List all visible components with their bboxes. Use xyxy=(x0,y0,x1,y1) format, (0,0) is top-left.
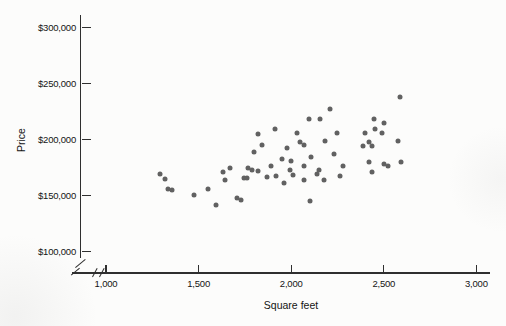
data-point xyxy=(331,151,336,156)
data-point xyxy=(395,138,400,143)
x-axis-title: Square feet xyxy=(264,299,318,311)
y-tick-mark xyxy=(82,83,91,84)
data-point xyxy=(385,164,390,169)
data-point xyxy=(205,186,210,191)
data-point xyxy=(255,132,260,137)
data-point xyxy=(323,138,328,143)
data-point xyxy=(228,165,233,170)
data-point xyxy=(307,199,312,204)
y-tick-label: $300,000 xyxy=(18,22,76,33)
x-tick-mark xyxy=(383,265,384,273)
data-point xyxy=(268,164,273,169)
data-point xyxy=(341,163,346,168)
data-point xyxy=(265,175,270,180)
data-point xyxy=(334,131,339,136)
data-point xyxy=(381,121,386,126)
data-point xyxy=(157,171,162,176)
data-point xyxy=(308,154,313,159)
y-tick-label: $150,000 xyxy=(18,190,76,201)
y-tick-mark xyxy=(82,195,91,196)
data-point xyxy=(338,174,343,179)
x-tick-label: 1,000 xyxy=(76,278,136,289)
data-point xyxy=(372,127,377,132)
data-point xyxy=(274,173,279,178)
data-point xyxy=(239,197,244,202)
x-tick-label: 2,500 xyxy=(354,278,414,289)
data-point xyxy=(220,169,225,174)
x-tick-label: 3,000 xyxy=(446,278,506,289)
data-point xyxy=(361,143,366,148)
data-point xyxy=(294,131,299,136)
data-point xyxy=(363,131,368,136)
scatter-chart: Price Square feet $100,000$150,000$200,0… xyxy=(0,0,506,326)
data-point xyxy=(291,172,296,177)
y-tick-label: $200,000 xyxy=(18,134,76,145)
x-tick-mark xyxy=(198,265,199,273)
data-point xyxy=(399,160,404,165)
y-axis-line xyxy=(80,15,81,258)
data-point xyxy=(371,117,376,122)
data-point xyxy=(306,117,311,122)
y-tick-mark xyxy=(82,251,91,252)
x-tick-mark xyxy=(105,265,106,273)
data-point xyxy=(369,144,374,149)
data-point xyxy=(244,175,249,180)
data-point xyxy=(279,156,284,161)
data-point xyxy=(321,177,326,182)
data-point xyxy=(397,94,402,99)
data-point xyxy=(272,127,277,132)
data-point xyxy=(169,187,174,192)
x-axis-line xyxy=(72,272,490,273)
data-point xyxy=(379,131,384,136)
x-tick-mark xyxy=(476,265,477,273)
data-point xyxy=(328,107,333,112)
data-point xyxy=(281,180,286,185)
data-point xyxy=(302,164,307,169)
data-point xyxy=(316,167,321,172)
x-tick-label: 1,500 xyxy=(169,278,229,289)
x-tick-mark xyxy=(291,265,292,273)
data-point xyxy=(223,177,228,182)
data-point xyxy=(302,177,307,182)
data-point xyxy=(191,192,196,197)
data-point xyxy=(214,203,219,208)
data-point xyxy=(289,158,294,163)
y-tick-mark xyxy=(82,139,91,140)
data-point xyxy=(366,160,371,165)
data-point xyxy=(250,167,255,172)
x-tick-label: 2,000 xyxy=(261,278,321,289)
y-tick-label: $100,000 xyxy=(18,246,76,257)
data-point xyxy=(302,142,307,147)
data-point xyxy=(260,142,265,147)
data-point xyxy=(369,169,374,174)
data-point xyxy=(285,146,290,151)
data-point xyxy=(255,168,260,173)
data-point xyxy=(317,117,322,122)
data-point xyxy=(163,176,168,181)
y-tick-mark xyxy=(82,27,91,28)
y-axis-break-mark xyxy=(75,259,86,268)
data-point xyxy=(252,150,257,155)
y-tick-label: $250,000 xyxy=(18,78,76,89)
